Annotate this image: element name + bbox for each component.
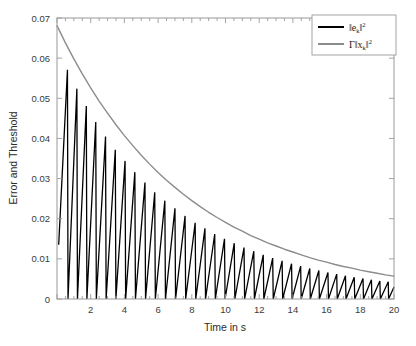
- x-tick-label: 10: [220, 304, 231, 315]
- chart-canvas: 2468101214161820 00.010.020.030.040.050.…: [0, 0, 416, 346]
- x-tick-label: 4: [122, 304, 127, 315]
- x-axis-tick-labels: 2468101214161820: [88, 304, 399, 315]
- y-axis-title: Error and Threshold: [7, 111, 19, 204]
- y-axis-tick-labels: 00.010.020.030.040.050.060.07: [32, 13, 51, 305]
- y-tick-label: 0.06: [32, 53, 51, 64]
- y-tick-label: 0.03: [32, 173, 51, 184]
- x-tick-label: 16: [321, 304, 332, 315]
- y-tick-label: 0.07: [32, 13, 51, 24]
- legend-label-threshold: Γ‖xk‖2: [349, 38, 372, 51]
- x-tick-label: 6: [155, 304, 160, 315]
- plot-background: [57, 18, 394, 299]
- y-tick-label: 0.05: [32, 93, 51, 104]
- x-tick-label: 18: [355, 304, 366, 315]
- x-axis-title: Time in s: [204, 321, 246, 333]
- x-tick-label: 20: [389, 304, 400, 315]
- figure-container: 2468101214161820 00.010.020.030.040.050.…: [0, 0, 416, 346]
- x-tick-label: 12: [254, 304, 265, 315]
- x-tick-label: 14: [288, 304, 299, 315]
- x-tick-label: 8: [189, 304, 194, 315]
- y-tick-label: 0: [45, 294, 50, 305]
- y-tick-label: 0.02: [32, 213, 51, 224]
- y-tick-label: 0.04: [32, 133, 51, 144]
- y-tick-label: 0.01: [32, 253, 51, 264]
- chart-legend[interactable]: ‖ek‖2 Γ‖xk‖2: [312, 15, 396, 55]
- x-tick-label: 2: [88, 304, 93, 315]
